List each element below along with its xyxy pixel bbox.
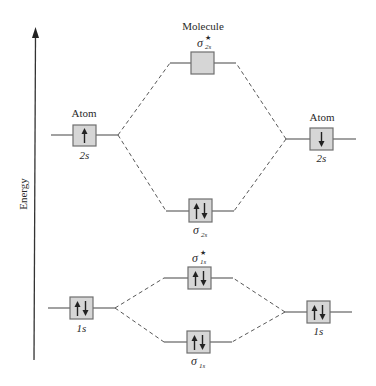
orbital-label: σ ★ 2s bbox=[197, 34, 212, 51]
orbital-label: 1s bbox=[77, 322, 87, 334]
orbital-box bbox=[307, 301, 330, 323]
orbital-left-2s: 2s bbox=[51, 125, 118, 161]
orbital-label: 1s bbox=[314, 325, 324, 337]
energy-axis-label: Energy bbox=[17, 178, 29, 210]
star-icon: ★ bbox=[205, 34, 211, 42]
svg-text:1s: 1s bbox=[200, 258, 207, 266]
orbital-right-2s: 2s bbox=[286, 128, 356, 164]
energy-axis-line bbox=[34, 36, 36, 360]
orbital-box bbox=[191, 52, 214, 74]
arrow-up-icon bbox=[32, 27, 39, 38]
svg-text:σ: σ bbox=[191, 354, 198, 368]
orbital-label: σ 1s bbox=[191, 354, 206, 370]
orbital-sigma-star-1s: σ ★ 1s bbox=[164, 249, 233, 289]
svg-text:σ: σ bbox=[193, 223, 200, 237]
svg-text:1s: 1s bbox=[199, 362, 206, 370]
orbital-label: σ ★ 1s bbox=[192, 249, 207, 266]
orbital-right-1s: 1s bbox=[285, 301, 352, 337]
right-atom-header: Atom bbox=[309, 111, 335, 123]
svg-text:2s: 2s bbox=[205, 43, 212, 51]
orbital-sigma-star-2s: σ ★ 2s bbox=[170, 34, 236, 74]
energy-axis: Energy bbox=[17, 27, 39, 360]
star-icon: ★ bbox=[200, 249, 206, 257]
orbital-label: 2s bbox=[317, 152, 327, 164]
svg-text:2s: 2s bbox=[201, 231, 208, 239]
orbital-sigma-2s: σ 2s bbox=[166, 199, 234, 239]
mo-diagram: Energy Atom Molecule Atom 2s σ ★ 2s bbox=[0, 0, 376, 386]
orbital-box bbox=[189, 199, 212, 222]
left-atom-header: Atom bbox=[71, 107, 97, 119]
orbital-box bbox=[188, 267, 211, 289]
svg-text:σ: σ bbox=[192, 251, 199, 265]
svg-text:σ: σ bbox=[197, 36, 204, 50]
orbital-label: 2s bbox=[80, 149, 90, 161]
molecule-header: Molecule bbox=[182, 20, 224, 32]
orbital-box bbox=[70, 297, 93, 319]
orbital-label: σ 2s bbox=[193, 223, 208, 239]
orbital-box bbox=[187, 331, 210, 353]
orbital-left-1s: 1s bbox=[48, 297, 115, 334]
orbital-sigma-1s: σ 1s bbox=[164, 331, 232, 370]
correlation-lines-2s bbox=[118, 63, 286, 211]
